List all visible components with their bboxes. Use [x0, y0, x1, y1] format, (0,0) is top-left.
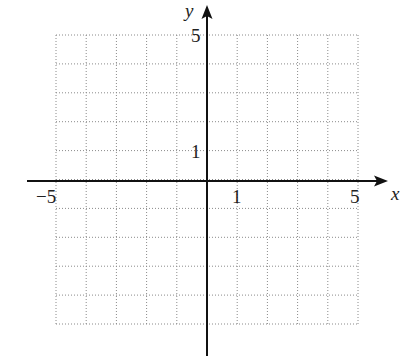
x-axis-label: x [390, 183, 400, 204]
coordinate-plane: x y −5 1 5 5 1 [0, 0, 408, 362]
x-tick-label-5: 5 [350, 186, 360, 207]
y-tick-label-5: 5 [191, 25, 201, 46]
x-tick-label-neg5: −5 [36, 186, 56, 207]
y-axis-label: y [183, 0, 194, 21]
x-tick-label-1: 1 [232, 186, 242, 207]
y-tick-label-1: 1 [191, 141, 201, 162]
